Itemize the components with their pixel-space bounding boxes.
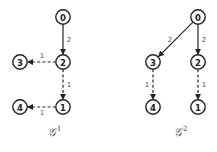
edge-weight-label: 1 bbox=[145, 81, 149, 89]
node-label: 2 bbox=[195, 58, 201, 68]
graph-title-g2: 𝒢2 bbox=[174, 125, 187, 139]
node-g2-0: 0 bbox=[191, 10, 205, 24]
node-label: 0 bbox=[60, 13, 66, 23]
node-g1-2: 2 bbox=[56, 55, 70, 69]
node-g2-4: 4 bbox=[146, 100, 160, 114]
node-label: 3 bbox=[150, 58, 156, 68]
edge-weight-label: 1 bbox=[40, 109, 44, 117]
edge-weight-label: 2 bbox=[202, 36, 206, 44]
edge-weight-label: 2 bbox=[168, 36, 172, 44]
node-g1-4: 4 bbox=[13, 100, 27, 114]
edge-weight-label: 1 bbox=[40, 52, 44, 60]
node-g1-1: 1 bbox=[56, 100, 70, 114]
node-label: 4 bbox=[17, 103, 23, 113]
node-label: 0 bbox=[195, 13, 201, 23]
node-g1-3: 3 bbox=[13, 55, 27, 69]
node-label: 3 bbox=[17, 58, 23, 68]
node-g2-3: 3 bbox=[146, 55, 160, 69]
edge-weight-label: 1 bbox=[67, 81, 71, 89]
edge-weight-label: 2 bbox=[67, 36, 71, 44]
node-g1-0: 0 bbox=[56, 10, 70, 24]
graph-title-g1: 𝒢1 bbox=[48, 125, 61, 139]
node-label: 1 bbox=[195, 103, 201, 113]
edge-g2-0-to-3 bbox=[158, 22, 192, 56]
node-label: 2 bbox=[60, 58, 66, 68]
node-g2-1: 1 bbox=[191, 100, 205, 114]
edge-weight-label: 1 bbox=[202, 81, 206, 89]
node-label: 1 bbox=[60, 103, 66, 113]
node-g2-2: 2 bbox=[191, 55, 205, 69]
node-label: 4 bbox=[150, 103, 156, 113]
graph-diagram: 0231403241 2111𝒢12211𝒢2 bbox=[0, 0, 217, 152]
